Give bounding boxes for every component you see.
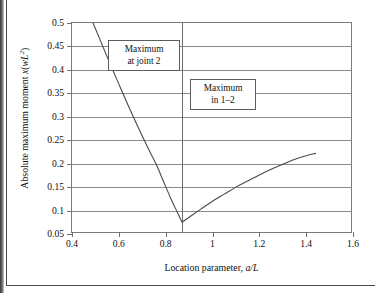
figure-page: 0.050.10.150.20.250.30.350.40.450.5 0.40… bbox=[0, 0, 377, 293]
y-axis-tick-label: 0.5 bbox=[52, 18, 64, 28]
x-axis-tick bbox=[353, 232, 354, 237]
x-axis-tick-label: 0.4 bbox=[66, 239, 78, 249]
y-axis-title: Absolute maximum moment x(wL2) bbox=[18, 18, 30, 218]
annotation-line-2: at joint 2 bbox=[114, 56, 174, 68]
y-axis-tick-label: 0.1 bbox=[52, 206, 64, 216]
annotation-line-1: Maximum bbox=[196, 83, 250, 95]
y-axis-tick-label: 0.2 bbox=[52, 159, 64, 169]
y-axis-tick-label: 0.3 bbox=[52, 112, 64, 122]
x-axis-title: Location parameter, a/L bbox=[71, 262, 352, 273]
y-axis-variable: x bbox=[19, 70, 30, 74]
y-axis-tick-label: 0.45 bbox=[47, 42, 64, 52]
y-axis-tick-label: 0.05 bbox=[47, 229, 64, 239]
annotation-maximum-in-1-2: Maximum in 1–2 bbox=[190, 79, 256, 110]
x-axis-tick-label: 1.6 bbox=[347, 239, 359, 249]
y-axis-tick-label: 0.15 bbox=[47, 182, 64, 192]
plot-area: 0.050.10.150.20.250.30.350.40.450.5 0.40… bbox=[71, 22, 352, 233]
x-axis-tick-label: 1 bbox=[210, 239, 215, 249]
annotation-maximum-at-joint-2: Maximum at joint 2 bbox=[108, 40, 180, 71]
annotation-line-1: Maximum bbox=[114, 44, 174, 56]
x-axis-tick-label: 1.4 bbox=[300, 239, 312, 249]
annotation-line-2: in 1–2 bbox=[196, 95, 250, 107]
x-axis-tick-label: 1.2 bbox=[253, 239, 265, 249]
chart-figure: 0.050.10.150.20.250.30.350.40.450.5 0.40… bbox=[0, 0, 377, 293]
y-axis-exponent: 2 bbox=[18, 51, 26, 55]
x-axis-variable: a/L bbox=[245, 262, 258, 273]
y-axis-unit-w: w bbox=[19, 60, 30, 67]
x-axis-tick-label: 0.6 bbox=[113, 239, 125, 249]
y-axis-tick-label: 0.35 bbox=[47, 89, 64, 99]
y-axis-tick-label: 0.25 bbox=[47, 135, 64, 145]
y-axis-unit-l: L bbox=[19, 54, 30, 59]
x-axis-tick-label: 0.8 bbox=[160, 239, 172, 249]
y-axis-tick-label: 0.4 bbox=[52, 65, 64, 75]
